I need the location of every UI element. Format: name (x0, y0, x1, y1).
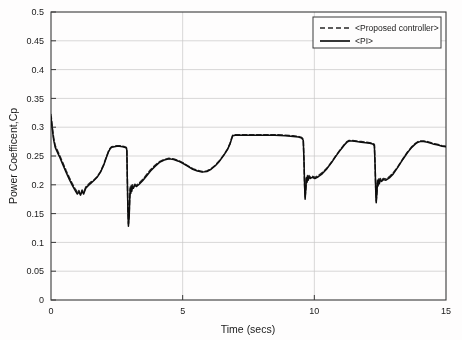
y-tick-label: 0.4 (31, 65, 44, 75)
y-tick-label: 0.15 (26, 209, 44, 219)
x-tick-label: 15 (441, 306, 451, 316)
y-axis-title: Power Coefficent,Cp (7, 108, 19, 204)
legend: <Proposed controller><PI> (313, 17, 441, 48)
x-tick-label: 0 (48, 306, 53, 316)
y-tick-label: 0.45 (26, 36, 44, 46)
legend-label: <PI> (355, 36, 373, 46)
x-tick-label: 10 (309, 306, 319, 316)
chart-background (0, 0, 462, 340)
y-tick-label: 0.5 (31, 7, 44, 17)
y-tick-label: 0.1 (31, 238, 44, 248)
x-axis-title: Time (secs) (221, 323, 275, 335)
x-tick-label: 5 (180, 306, 185, 316)
y-tick-label: 0.2 (31, 180, 44, 190)
power-coefficient-chart: 00.050.10.150.20.250.30.350.40.450.5 051… (0, 0, 462, 340)
y-tick-label: 0.35 (26, 94, 44, 104)
y-tick-label: 0.3 (31, 122, 44, 132)
y-tick-label: 0.25 (26, 151, 44, 161)
legend-label: <Proposed controller> (355, 23, 439, 33)
y-tick-label: 0.05 (26, 266, 44, 276)
y-tick-label: 0 (39, 295, 44, 305)
figure-container: 00.050.10.150.20.250.30.350.40.450.5 051… (0, 0, 462, 340)
